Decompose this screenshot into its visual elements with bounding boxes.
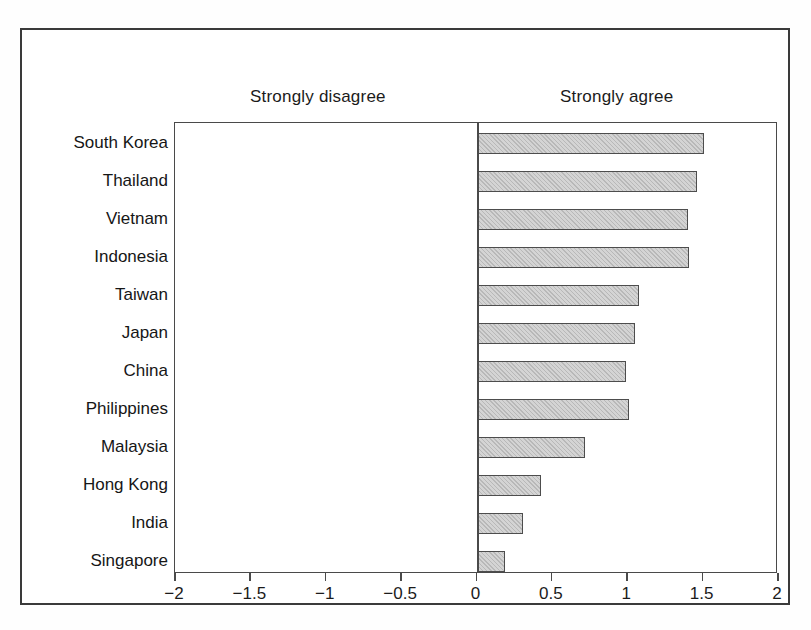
bar-china[interactable] xyxy=(477,361,626,382)
x-axis: −2−1.5−1−0.500.511.52 xyxy=(174,573,777,613)
bar-hong-kong[interactable] xyxy=(477,475,542,496)
x-tick-label: −1 xyxy=(315,584,334,604)
x-tick xyxy=(777,573,779,581)
annotation-strongly-agree: Strongly agree xyxy=(560,87,673,107)
category-label-hong-kong: Hong Kong xyxy=(28,475,168,495)
category-label-malaysia: Malaysia xyxy=(28,437,168,457)
bar-row xyxy=(175,276,776,314)
bar-row xyxy=(175,504,776,542)
category-label-indonesia: Indonesia xyxy=(28,247,168,267)
bar-south-korea[interactable] xyxy=(477,133,705,154)
zero-baseline xyxy=(477,123,479,572)
x-tick xyxy=(702,573,704,581)
bar-row xyxy=(175,466,776,504)
bar-row xyxy=(175,428,776,466)
bar-row xyxy=(175,162,776,200)
category-label-india: India xyxy=(28,513,168,533)
bar-indonesia[interactable] xyxy=(477,247,690,268)
x-tick-label: 0 xyxy=(471,584,480,604)
chart-screenshot: Strongly disagree Strongly agree South K… xyxy=(0,0,811,630)
bar-japan[interactable] xyxy=(477,323,635,344)
category-label-japan: Japan xyxy=(28,323,168,343)
category-label-thailand: Thailand xyxy=(28,171,168,191)
x-tick-label: 1.5 xyxy=(690,584,714,604)
bar-vietnam[interactable] xyxy=(477,209,688,230)
bar-row xyxy=(175,124,776,162)
bar-row xyxy=(175,200,776,238)
bar-row xyxy=(175,352,776,390)
bar-malaysia[interactable] xyxy=(477,437,586,458)
category-label-singapore: Singapore xyxy=(28,551,168,571)
x-tick xyxy=(325,573,327,581)
x-tick-label: −1.5 xyxy=(233,584,267,604)
bar-thailand[interactable] xyxy=(477,171,697,192)
bars-layer xyxy=(175,123,776,572)
category-label-south-korea: South Korea xyxy=(28,133,168,153)
x-tick xyxy=(174,573,176,581)
category-label-taiwan: Taiwan xyxy=(28,285,168,305)
bar-india[interactable] xyxy=(477,513,524,534)
x-tick xyxy=(400,573,402,581)
bar-row xyxy=(175,390,776,428)
category-axis-labels: South KoreaThailandVietnamIndonesiaTaiwa… xyxy=(24,122,168,573)
category-label-china: China xyxy=(28,361,168,381)
x-tick-label: −0.5 xyxy=(383,584,417,604)
bar-row xyxy=(175,314,776,352)
plot-area xyxy=(174,122,777,573)
x-tick xyxy=(249,573,251,581)
bar-row xyxy=(175,238,776,276)
x-tick xyxy=(476,573,478,581)
x-tick xyxy=(626,573,628,581)
bar-taiwan[interactable] xyxy=(477,285,640,306)
x-tick xyxy=(551,573,553,581)
x-tick-label: 0.5 xyxy=(539,584,563,604)
annotation-strongly-disagree: Strongly disagree xyxy=(250,87,386,107)
x-tick-label: 1 xyxy=(622,584,631,604)
category-label-philippines: Philippines xyxy=(28,399,168,419)
category-label-vietnam: Vietnam xyxy=(28,209,168,229)
bar-singapore[interactable] xyxy=(477,551,506,572)
bar-philippines[interactable] xyxy=(477,399,629,420)
x-tick-label: −2 xyxy=(164,584,183,604)
figure-frame: Strongly disagree Strongly agree South K… xyxy=(20,28,790,605)
x-tick-label: 2 xyxy=(772,584,781,604)
